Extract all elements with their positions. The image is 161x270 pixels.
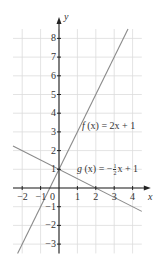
y-tick-label: 3 [51,127,56,137]
g-frac-num: 1 [113,163,116,170]
y-tick-label: 1 [51,164,56,174]
y-tick-label: 7 [51,52,56,62]
y-tick-label: −2 [45,220,56,230]
y-axis-arrow-icon [57,17,62,24]
f-arg: (x) [87,120,99,131]
y-tick-label: 4 [51,108,56,118]
x-tick-label: 2 [93,192,98,202]
y-tick-label: −3 [45,239,56,249]
g-fraction: 12 [113,163,116,176]
g-rhs-prefix: = − [99,163,113,174]
x-tick-label: 3 [112,192,117,202]
g-rhs-suffix: x + 1 [117,163,138,174]
x-tick-label: 4 [130,192,135,202]
g-arg: (x) [85,163,97,174]
axes [13,17,151,253]
y-tick-label: 8 [51,33,56,43]
y-tick-label: 2 [51,146,56,156]
f-function-label: f (x) = 2x + 1 [82,121,135,131]
x-tick-label: 1 [75,192,80,202]
f-name: f [82,120,85,131]
x-tick-label: −2 [17,192,28,202]
f-line [18,29,128,253]
y-tick-label: −1 [45,202,56,212]
x-tick-label: −1 [36,192,47,202]
g-function-label: g (x) = −12x + 1 [77,163,138,176]
f-rhs: = 2x + 1 [101,120,135,131]
origin-label: 0 [50,192,55,202]
grid-lines [13,29,142,253]
chart-canvas [0,0,161,270]
g-frac-den: 2 [113,170,116,176]
x-axis-label: x [148,192,152,202]
y-tick-label: 5 [51,90,56,100]
g-name: g [77,163,82,174]
y-tick-label: 6 [51,71,56,81]
y-axis-label: y [64,12,68,22]
x-axis-arrow-icon [144,186,151,191]
